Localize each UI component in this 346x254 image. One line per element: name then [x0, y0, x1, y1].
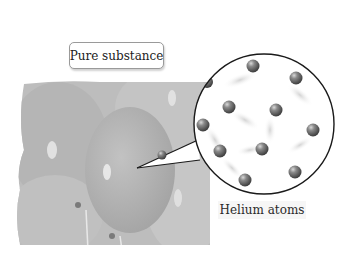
helium-atom [247, 60, 260, 73]
helium-atom [289, 166, 302, 179]
helium-atom [158, 151, 167, 160]
helium-atom [256, 143, 269, 156]
helium-atom [197, 119, 210, 132]
diagram: Pure substance Helium atoms [0, 0, 346, 254]
pure-substance-label: Pure substance [69, 42, 164, 69]
helium-atom [223, 101, 236, 114]
helium-atoms-text: Helium atoms [220, 203, 305, 217]
helium-atom [239, 174, 252, 187]
helium-atom [290, 72, 303, 85]
helium-atoms-caption: Helium atoms [218, 201, 306, 219]
pure-substance-text: Pure substance [70, 49, 164, 63]
helium-atom [214, 145, 227, 158]
helium-atom [270, 104, 283, 117]
helium-atom [307, 124, 320, 137]
